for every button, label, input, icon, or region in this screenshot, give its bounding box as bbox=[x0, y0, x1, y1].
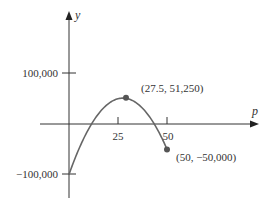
max-point bbox=[123, 95, 129, 101]
max-point-label: (27.5, 51,250) bbox=[141, 82, 204, 95]
x-tick-label-25: 25 bbox=[113, 130, 125, 142]
end-point-label: (50, −50,000) bbox=[176, 151, 237, 164]
y-tick-label-100000: 100,000 bbox=[22, 67, 58, 79]
end-point bbox=[164, 147, 170, 153]
chart: y p 100,000 −100,000 25 50 (27.5, 51,250… bbox=[0, 0, 264, 208]
x-axis-label: p bbox=[251, 104, 258, 118]
x-tick-label-50: 50 bbox=[163, 130, 175, 142]
x-axis-arrow-icon bbox=[250, 121, 259, 128]
y-axis-label: y bbox=[74, 8, 81, 22]
y-tick-label-neg100000: −100,000 bbox=[16, 168, 58, 180]
y-axis-arrow-icon bbox=[66, 11, 73, 20]
